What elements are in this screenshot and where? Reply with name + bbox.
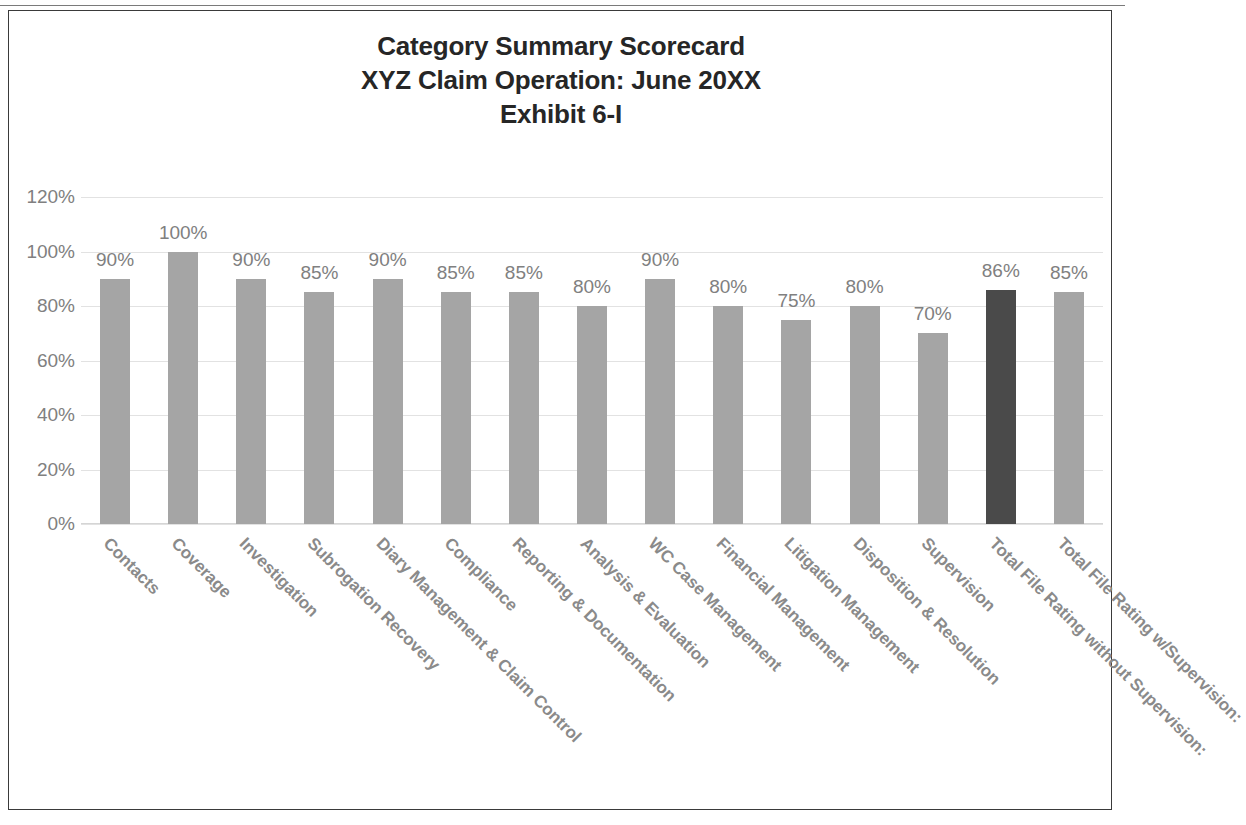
bar-slot: 80% bbox=[694, 197, 762, 524]
bar-value-label: 80% bbox=[709, 276, 747, 298]
category-label: Financial Management bbox=[712, 534, 854, 676]
x-axis-category-labels: ContactsCoverageInvestigationSubrogation… bbox=[81, 528, 1103, 818]
bar-slot: 85% bbox=[285, 197, 353, 524]
bar[interactable] bbox=[509, 292, 539, 524]
category-slot: Disposition & Resolution bbox=[830, 528, 898, 529]
bar-value-label: 90% bbox=[641, 249, 679, 271]
bar[interactable] bbox=[236, 279, 266, 524]
bar-value-label: 85% bbox=[300, 262, 338, 284]
y-axis-tick-label: 20% bbox=[5, 459, 75, 481]
bar[interactable] bbox=[1054, 292, 1084, 524]
y-axis-tick-label: 120% bbox=[5, 186, 75, 208]
bar[interactable] bbox=[577, 306, 607, 524]
category-slot: Total File Rating w/Supervision: bbox=[1035, 528, 1103, 529]
bar[interactable] bbox=[850, 306, 880, 524]
category-slot: Supervision bbox=[899, 528, 967, 529]
bar-slot: 85% bbox=[490, 197, 558, 524]
y-axis-tick-label: 0% bbox=[5, 513, 75, 535]
bar-value-label: 75% bbox=[777, 290, 815, 312]
category-slot: Analysis & Evaluation bbox=[558, 528, 626, 529]
category-label: WC Case Management bbox=[644, 534, 786, 676]
category-slot: Coverage bbox=[149, 528, 217, 529]
bar-value-label: 90% bbox=[96, 249, 134, 271]
bar-value-label: 90% bbox=[232, 249, 270, 271]
bar-slot: 86% bbox=[967, 197, 1035, 524]
y-axis-tick-label: 60% bbox=[5, 350, 75, 372]
y-axis-tick-label: 80% bbox=[5, 295, 75, 317]
bar-value-label: 85% bbox=[1050, 262, 1088, 284]
bar-value-label: 86% bbox=[982, 260, 1020, 282]
bar-slot: 85% bbox=[422, 197, 490, 524]
bar-slot: 90% bbox=[626, 197, 694, 524]
page-top-rule bbox=[0, 5, 1125, 6]
bar[interactable] bbox=[986, 290, 1016, 524]
bar-slot: 90% bbox=[81, 197, 149, 524]
category-slot: Reporting & Documentation bbox=[490, 528, 558, 529]
category-label: Subrogation Recovery bbox=[303, 534, 444, 675]
bar-slot: 100% bbox=[149, 197, 217, 524]
bar-value-label: 80% bbox=[573, 276, 611, 298]
category-slot: Contacts bbox=[81, 528, 149, 529]
category-label: Coverage bbox=[167, 534, 235, 602]
y-axis-tick-label: 40% bbox=[5, 404, 75, 426]
bar-slot: 90% bbox=[354, 197, 422, 524]
category-slot: Diary Management & Claim Control bbox=[354, 528, 422, 529]
bar-value-label: 85% bbox=[505, 262, 543, 284]
y-axis-tick-label: 100% bbox=[5, 241, 75, 263]
bar[interactable] bbox=[100, 279, 130, 524]
bar-value-label: 100% bbox=[159, 222, 208, 244]
bar[interactable] bbox=[373, 279, 403, 524]
chart-frame: Category Summary Scorecard XYZ Claim Ope… bbox=[8, 10, 1112, 810]
bar-slot: 75% bbox=[762, 197, 830, 524]
bar-chart: 120%100%80%60%40%20%0% 90%100%90%85%90%8… bbox=[9, 11, 1113, 811]
category-slot: WC Case Management bbox=[626, 528, 694, 529]
bar[interactable] bbox=[304, 292, 334, 524]
bar[interactable] bbox=[918, 333, 948, 524]
bar-slot: 90% bbox=[217, 197, 285, 524]
category-label: Analysis & Evaluation bbox=[576, 534, 714, 672]
bar-slot: 70% bbox=[899, 197, 967, 524]
bar[interactable] bbox=[781, 320, 811, 524]
bar-value-label: 80% bbox=[846, 276, 884, 298]
bar-slot: 85% bbox=[1035, 197, 1103, 524]
category-slot: Subrogation Recovery bbox=[285, 528, 353, 529]
bar[interactable] bbox=[168, 252, 198, 525]
bar[interactable] bbox=[645, 279, 675, 524]
bar-slot: 80% bbox=[830, 197, 898, 524]
category-slot: Financial Management bbox=[694, 528, 762, 529]
bar[interactable] bbox=[713, 306, 743, 524]
bar-value-label: 70% bbox=[914, 303, 952, 325]
category-slot: Compliance bbox=[422, 528, 490, 529]
category-slot: Total File Rating without Supervision: bbox=[967, 528, 1035, 529]
plot-area: 120%100%80%60%40%20%0% 90%100%90%85%90%8… bbox=[81, 197, 1103, 524]
category-slot: Litigation Management bbox=[762, 528, 830, 529]
bar-series: 90%100%90%85%90%85%85%80%90%80%75%80%70%… bbox=[81, 197, 1103, 524]
bar-value-label: 85% bbox=[437, 262, 475, 284]
gridline bbox=[81, 524, 1103, 525]
category-label: Contacts bbox=[99, 534, 164, 599]
bar-value-label: 90% bbox=[369, 249, 407, 271]
category-label: Litigation Management bbox=[780, 534, 924, 678]
bar[interactable] bbox=[441, 292, 471, 524]
category-slot: Investigation bbox=[217, 528, 285, 529]
bar-slot: 80% bbox=[558, 197, 626, 524]
